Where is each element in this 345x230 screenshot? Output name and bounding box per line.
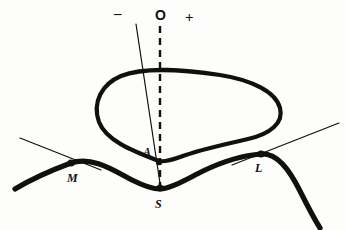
origin-point-label: O xyxy=(155,8,166,22)
profile-curve xyxy=(15,154,320,228)
point-l-dot xyxy=(257,150,264,157)
diagram-figure: – O + A M S L xyxy=(0,0,345,230)
polarity-positive-label: + xyxy=(185,10,194,25)
diagram-canvas xyxy=(0,0,345,230)
tangent-line-l xyxy=(232,123,339,165)
point-m-label: M xyxy=(67,172,78,184)
point-a-label: A xyxy=(143,146,151,158)
point-s-dot xyxy=(156,184,163,191)
closed-loop xyxy=(97,70,281,162)
polarity-negative-label: – xyxy=(114,6,122,21)
point-a-dot xyxy=(156,159,162,165)
point-m-dot xyxy=(67,159,74,166)
point-s-label: S xyxy=(155,198,162,210)
oblique-thin-line xyxy=(136,24,161,190)
point-l-label: L xyxy=(255,162,263,174)
